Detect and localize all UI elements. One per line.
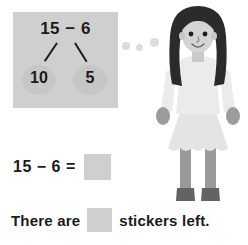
number-bond-part-left: 10 (22, 69, 56, 87)
equation-answer-blank[interactable] (84, 154, 111, 180)
number-bond-total: 15 − 6 (13, 19, 118, 39)
number-bond-panel: 15 − 6 10 5 (13, 12, 118, 108)
worksheet-canvas: 15 − 6 10 5 15 − 6 = There are stickers … (0, 0, 248, 245)
girl-illustration (148, 2, 248, 214)
number-bond-branch-left (44, 42, 58, 61)
decorative-dot-2 (136, 44, 143, 51)
number-bond-branch-right (74, 42, 87, 62)
decorative-dot-1 (122, 42, 130, 50)
sentence-answer-blank[interactable] (87, 208, 112, 232)
equation-expression: 15 − 6 = (13, 158, 76, 176)
equation-row: 15 − 6 = (13, 153, 111, 181)
sentence-suffix: stickers left. (119, 212, 209, 229)
number-bond-part-right: 5 (73, 69, 107, 87)
sentence-prefix: There are (11, 212, 80, 229)
